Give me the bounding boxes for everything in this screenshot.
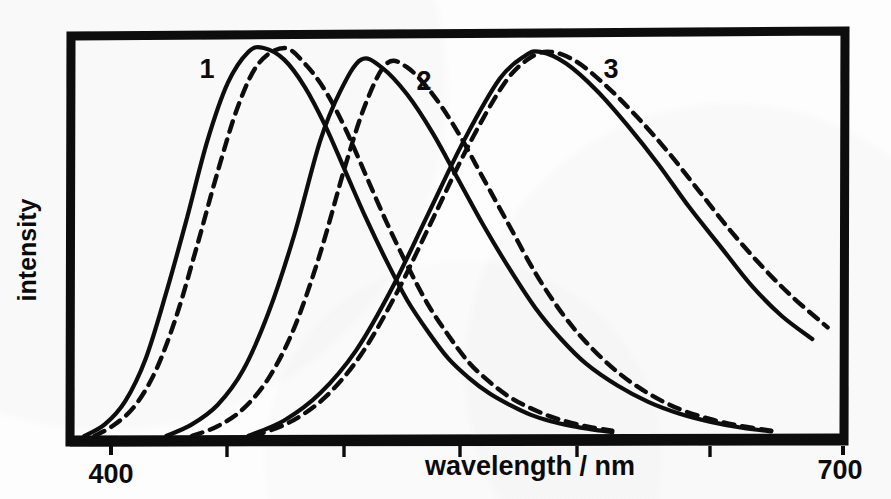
x-tick-label-400: 400: [88, 459, 133, 489]
curve-label-2: 2: [416, 66, 431, 96]
spectral-curves: [84, 47, 827, 436]
x-tick-label-700: 700: [817, 455, 862, 485]
spectral-curve-3-dashed: [253, 52, 827, 436]
y-axis-title: intensity: [13, 199, 41, 302]
spectral-curve-1-solid: [84, 47, 612, 436]
spectral-curve-1-dashed: [95, 48, 613, 436]
spectral-chart-figure: 123 400 700 wavelength / nm intensity: [0, 0, 891, 499]
spectral-plot-svg: 123 400 700 wavelength / nm intensity: [0, 0, 891, 499]
x-axis-title: wavelength / nm: [424, 451, 635, 481]
plot-frame: [70, 31, 845, 442]
curve-label-3: 3: [603, 54, 618, 84]
curve-label-1: 1: [199, 54, 214, 84]
